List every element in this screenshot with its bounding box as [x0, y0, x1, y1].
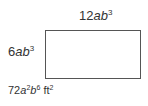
width-label: 12ab3: [79, 9, 112, 22]
width-exp-b: 3: [108, 8, 112, 17]
area-label: 72a2b6 ft2: [8, 85, 53, 96]
width-var-b: b: [101, 8, 108, 23]
area-exp-b: 6: [36, 84, 40, 91]
height-label: 6ab3: [8, 45, 34, 58]
height-exp-b: 3: [30, 44, 34, 53]
area-coefficient: 72: [8, 84, 20, 96]
width-var-a: a: [93, 8, 100, 23]
rectangle: [45, 30, 141, 79]
area-unit-exp: 2: [50, 84, 54, 91]
height-var-b: b: [22, 44, 29, 59]
width-coefficient: 12: [79, 8, 93, 23]
